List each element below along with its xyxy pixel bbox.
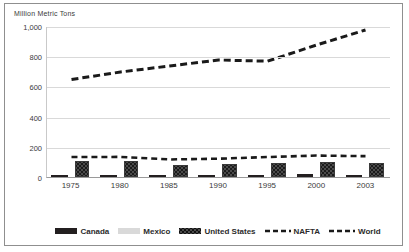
- legend-label: Mexico: [143, 227, 170, 236]
- y-axis-tick-label: 400: [29, 113, 42, 122]
- legend-item-canada[interactable]: Canada: [55, 227, 109, 236]
- x-axis-tick-label: 1980: [111, 181, 129, 190]
- bar-canada: [198, 175, 215, 177]
- legend-item-united-states[interactable]: United States: [179, 227, 255, 236]
- bar-united-states: [173, 165, 188, 177]
- bar-united-states: [320, 162, 335, 177]
- x-axis-tick-label: 2000: [307, 181, 325, 190]
- x-axis-tick-label: 1985: [160, 181, 178, 190]
- bar-canada: [149, 175, 166, 177]
- patterned-icon: [179, 228, 201, 234]
- y-axis-tick-label: 0: [38, 174, 42, 183]
- y-axis-tick-labels: 02004006008001,000: [6, 27, 42, 178]
- x-axis-tick-label: 1990: [209, 181, 227, 190]
- bar-united-states: [75, 161, 90, 177]
- line-nafta: [71, 156, 365, 160]
- bar-canada: [248, 175, 265, 177]
- y-axis-tick-label: 200: [29, 143, 42, 152]
- dashed-line-icon: [265, 228, 291, 234]
- bar-canada: [51, 175, 68, 177]
- x-axis-tick-labels: 1975198019851990199520002003: [46, 181, 390, 197]
- legend-label: United States: [204, 227, 255, 236]
- x-axis-tick-label: 2003: [357, 181, 375, 190]
- solid-light-icon: [118, 228, 140, 234]
- series-lines-layer: [47, 27, 390, 177]
- legend-label: World: [358, 227, 381, 236]
- legend-item-world[interactable]: World: [329, 227, 381, 236]
- bar-united-states: [271, 163, 286, 177]
- solid-dark-icon: [55, 228, 77, 234]
- gridline: [47, 27, 390, 28]
- bar-united-states: [369, 163, 384, 177]
- plot-area: [46, 27, 390, 178]
- legend-label: Canada: [80, 227, 109, 236]
- y-axis-tick-label: 800: [29, 53, 42, 62]
- bar-united-states: [222, 164, 237, 177]
- legend-item-nafta[interactable]: NAFTA: [265, 227, 321, 236]
- gridline: [47, 57, 390, 58]
- gridline: [47, 87, 390, 88]
- y-axis-tick-label: 600: [29, 83, 42, 92]
- bar-canada: [297, 174, 314, 177]
- dashed-line-icon: [329, 228, 355, 234]
- x-axis-tick-label: 1975: [62, 181, 80, 190]
- bar-canada: [100, 175, 117, 177]
- gridline: [47, 118, 390, 119]
- bar-canada: [346, 175, 363, 177]
- chart-figure: Million Metric Tons 02004006008001,000 1…: [0, 0, 409, 252]
- x-axis-tick-label: 1995: [258, 181, 276, 190]
- y-axis-tick-label: 1,000: [23, 23, 42, 32]
- chart-title: Million Metric Tons: [14, 10, 75, 17]
- bar-united-states: [124, 161, 139, 177]
- line-world: [71, 30, 365, 80]
- legend-item-mexico[interactable]: Mexico: [118, 227, 170, 236]
- legend-label: NAFTA: [294, 227, 321, 236]
- gridline: [47, 148, 390, 149]
- chart-legend: CanadaMexicoUnited StatesNAFTAWorld: [46, 222, 390, 240]
